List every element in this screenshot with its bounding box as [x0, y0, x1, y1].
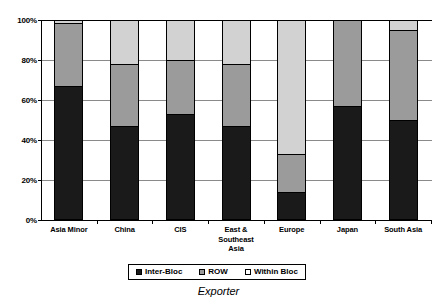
y-axis-tick-label: 60%	[22, 96, 37, 105]
bar-group[interactable]	[277, 20, 306, 220]
bar-group[interactable]	[166, 20, 195, 220]
bar-segment-inter-bloc[interactable]	[110, 126, 139, 220]
bar-group[interactable]	[222, 20, 251, 220]
x-axis-tick	[375, 220, 376, 224]
bar-segment-within-bloc[interactable]	[166, 20, 195, 60]
stacked-bar[interactable]	[54, 20, 83, 220]
bar-segment-inter-bloc[interactable]	[389, 120, 418, 220]
bar-group[interactable]	[54, 20, 83, 220]
bar-segment-row[interactable]	[110, 64, 139, 126]
chart-legend: Inter-Bloc ROW Within Bloc	[128, 264, 306, 280]
stacked-bar[interactable]	[333, 20, 362, 220]
bar-group[interactable]	[110, 20, 139, 220]
y-axis-tick-label: 0%	[26, 216, 37, 225]
stacked-bar[interactable]	[166, 20, 195, 220]
x-axis-category-label: Asia Minor	[41, 225, 97, 235]
bar-segment-within-bloc[interactable]	[277, 20, 306, 154]
stacked-bar[interactable]	[389, 20, 418, 220]
legend-item-within-bloc: Within Bloc	[245, 267, 298, 277]
stacked-bar[interactable]	[277, 20, 306, 220]
bar-segment-inter-bloc[interactable]	[277, 192, 306, 220]
x-axis-category-label: South Asia	[375, 225, 431, 235]
bar-segment-inter-bloc[interactable]	[222, 126, 251, 220]
stacked-bar[interactable]	[110, 20, 139, 220]
bar-segment-row[interactable]	[54, 23, 83, 86]
y-axis-tick-label: 100%	[17, 16, 37, 25]
y-axis-tick-label: 40%	[22, 136, 37, 145]
x-axis-category-label: Japan	[320, 225, 376, 235]
bar-segment-row[interactable]	[277, 154, 306, 192]
x-axis-tick	[152, 220, 153, 224]
legend-item-inter-bloc: Inter-Bloc	[136, 267, 182, 277]
stacked-bar-chart: 0%20%40%60%80%100% Asia MinorChinaCISEas…	[0, 0, 437, 307]
bars-layer	[41, 20, 431, 220]
legend-swatch-icon	[136, 269, 142, 275]
stacked-bar[interactable]	[222, 20, 251, 220]
bar-segment-row[interactable]	[389, 30, 418, 120]
legend-swatch-icon	[199, 269, 205, 275]
legend-item-row: ROW	[199, 267, 228, 277]
y-axis-tick	[38, 220, 42, 221]
bar-segment-inter-bloc[interactable]	[333, 106, 362, 220]
bar-segment-inter-bloc[interactable]	[54, 86, 83, 220]
x-axis-tick	[208, 220, 209, 224]
x-axis-tick	[97, 220, 98, 224]
x-axis-title: Exporter	[0, 285, 437, 297]
bar-segment-within-bloc[interactable]	[389, 20, 418, 30]
x-axis-category-label: CIS	[152, 225, 208, 235]
y-axis-labels: 0%20%40%60%80%100%	[0, 20, 37, 220]
x-axis-tick	[264, 220, 265, 224]
bar-segment-row[interactable]	[222, 64, 251, 126]
legend-label: ROW	[208, 267, 228, 277]
legend-swatch-icon	[245, 269, 251, 275]
y-axis-tick-label: 20%	[22, 176, 37, 185]
x-axis-category-label: East &SoutheastAsia	[208, 225, 264, 254]
x-axis-category-label: Europe	[264, 225, 320, 235]
bar-segment-within-bloc[interactable]	[110, 20, 139, 64]
x-axis-tick	[320, 220, 321, 224]
x-axis-category-label: China	[97, 225, 153, 235]
bar-segment-within-bloc[interactable]	[54, 20, 83, 23]
x-axis-labels: Asia MinorChinaCISEast &SoutheastAsiaEur…	[41, 225, 431, 265]
legend-label: Inter-Bloc	[145, 267, 182, 277]
bar-group[interactable]	[389, 20, 418, 220]
bar-segment-row[interactable]	[333, 20, 362, 106]
bar-group[interactable]	[333, 20, 362, 220]
y-axis-tick-label: 80%	[22, 56, 37, 65]
bar-segment-within-bloc[interactable]	[222, 20, 251, 64]
legend-label: Within Bloc	[254, 267, 298, 277]
bar-segment-inter-bloc[interactable]	[166, 114, 195, 220]
x-axis-tick	[431, 220, 432, 224]
bar-segment-row[interactable]	[166, 60, 195, 114]
